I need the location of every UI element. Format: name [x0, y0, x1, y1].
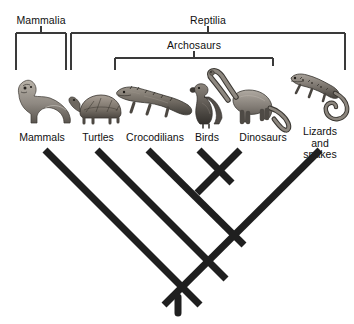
cladogram-tree-layer [0, 0, 354, 324]
branch-lizards [164, 150, 320, 305]
cladogram-figure: Mammalia Reptilia Archosaurs [0, 0, 354, 324]
branch-turtles [97, 150, 226, 279]
